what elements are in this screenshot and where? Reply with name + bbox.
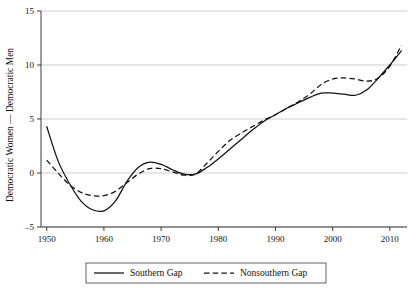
x-axis-ticks: 1950196019701980199020002010	[38, 227, 400, 244]
x-tick-label: 1980	[209, 234, 228, 244]
x-tick-label: 2010	[381, 234, 400, 244]
chart-legend[interactable]: Southern GapNonsouthern Gap	[86, 263, 326, 283]
x-tick-label: 2000	[324, 234, 343, 244]
x-tick-label: 1950	[38, 234, 57, 244]
x-tick-label: 1990	[266, 234, 285, 244]
y-axis-label: Democratic Women — Democratic Men	[5, 48, 15, 202]
line-chart: –5051015 1950196019701980199020002010 De…	[0, 0, 411, 289]
y-tick-label: 5	[30, 114, 35, 124]
series-line-nonsouthern-gap	[47, 46, 402, 197]
series-line-southern-gap	[47, 51, 402, 212]
y-axis-ticks: –5051015	[24, 6, 41, 232]
y-tick-label: –5	[24, 222, 35, 232]
chart-figure: –5051015 1950196019701980199020002010 De…	[0, 0, 411, 289]
x-tick-label: 1970	[152, 234, 171, 244]
legend-label[interactable]: Southern Gap	[130, 268, 183, 278]
gridlines	[41, 11, 407, 227]
data-series	[47, 46, 402, 212]
legend-label[interactable]: Nonsouthern Gap	[240, 268, 308, 278]
y-tick-label: 10	[25, 60, 35, 70]
y-tick-label: 0	[30, 168, 35, 178]
y-tick-label: 15	[25, 6, 35, 16]
x-tick-label: 1960	[95, 234, 114, 244]
